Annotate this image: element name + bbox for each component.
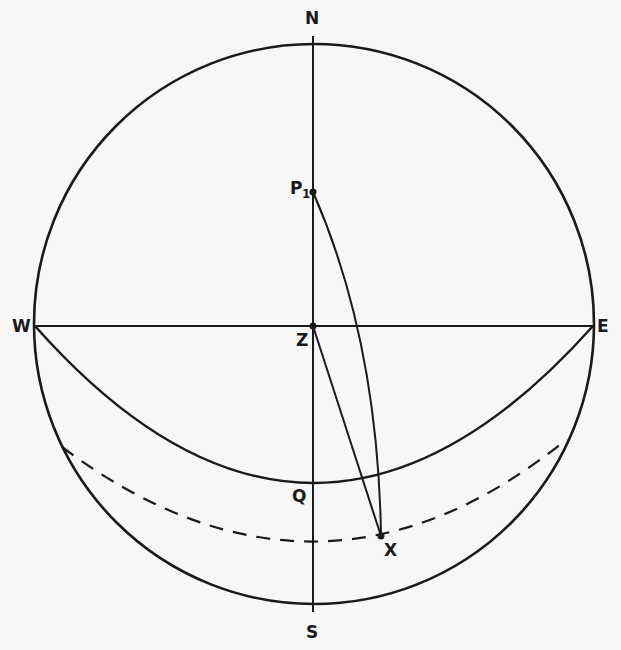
label-pole-subscript: 1	[302, 187, 310, 201]
label-west: W	[12, 316, 31, 336]
celestial-sphere-diagram: N S W E Z P 1 Q X	[0, 0, 621, 650]
declination-circle-arc	[62, 439, 567, 542]
label-east: E	[597, 316, 609, 336]
label-q: Q	[292, 486, 306, 506]
label-pole: P	[290, 178, 302, 198]
label-zenith: Z	[296, 330, 308, 350]
label-north: N	[305, 8, 319, 28]
zenith-point	[310, 323, 317, 330]
hour-circle-arc	[313, 192, 381, 536]
zenith-to-x-line	[313, 326, 381, 536]
x-point	[378, 533, 385, 540]
pole-point	[310, 189, 317, 196]
label-x: X	[384, 540, 397, 560]
label-south: S	[306, 622, 318, 642]
